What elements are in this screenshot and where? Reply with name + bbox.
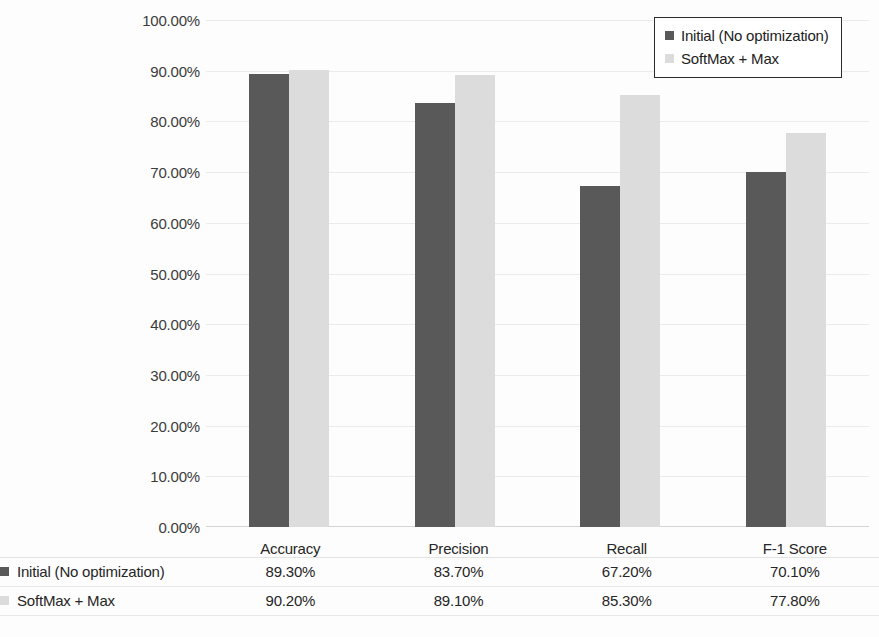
bar-group xyxy=(746,20,826,527)
legend-item-label: SoftMax + Max xyxy=(681,50,779,67)
table-column-header: Precision xyxy=(374,528,542,557)
plot-area xyxy=(206,20,869,527)
y-axis-tick-label: 80.00% xyxy=(108,113,200,130)
chart-data-table: Accuracy Precision Recall F-1 Score Init… xyxy=(0,528,879,616)
bar[interactable] xyxy=(249,74,289,527)
y-axis-tick-label: 30.00% xyxy=(108,366,200,383)
bar-group xyxy=(249,20,329,527)
table-series-label-cell: Initial (No optimization) xyxy=(0,557,206,586)
chart-legend: Initial (No optimization) SoftMax + Max xyxy=(654,17,842,78)
y-axis-tick-label: 50.00% xyxy=(108,265,200,282)
table-corner-cell xyxy=(0,528,206,557)
bar[interactable] xyxy=(289,70,329,527)
table-series-label: Initial (No optimization) xyxy=(17,563,165,580)
legend-swatch-icon xyxy=(665,31,674,40)
y-axis-tick-label: 40.00% xyxy=(108,316,200,333)
series-swatch-icon xyxy=(0,596,9,605)
table-cell: 90.20% xyxy=(206,586,374,615)
table-header-row: Accuracy Precision Recall F-1 Score xyxy=(0,528,879,557)
y-axis-tick-label: 60.00% xyxy=(108,214,200,231)
legend-item[interactable]: SoftMax + Max xyxy=(665,47,829,70)
table-row: Initial (No optimization) 89.30% 83.70% … xyxy=(0,557,879,586)
bar[interactable] xyxy=(746,172,786,527)
bar[interactable] xyxy=(620,95,660,527)
chart-figure: 0.00%10.00%20.00%30.00%40.00%50.00%60.00… xyxy=(0,0,879,637)
table-cell: 83.70% xyxy=(374,557,542,586)
table-cell: 67.20% xyxy=(543,557,711,586)
bar-group xyxy=(580,20,660,527)
bar[interactable] xyxy=(580,186,620,527)
table-cell: 89.10% xyxy=(374,586,542,615)
bar-group xyxy=(415,20,495,527)
table-row: SoftMax + Max 90.20% 89.10% 85.30% 77.80… xyxy=(0,586,879,615)
series-swatch-icon xyxy=(0,567,9,576)
y-axis-tick-label: 10.00% xyxy=(108,468,200,485)
legend-swatch-icon xyxy=(665,54,674,63)
table-series-label-cell: SoftMax + Max xyxy=(0,586,206,615)
y-axis-tick-label: 90.00% xyxy=(108,62,200,79)
table-cell: 85.30% xyxy=(543,586,711,615)
bar[interactable] xyxy=(455,75,495,527)
table-column-header: Recall xyxy=(543,528,711,557)
table-column-header: F-1 Score xyxy=(711,528,879,557)
bar[interactable] xyxy=(415,103,455,527)
bar[interactable] xyxy=(786,133,826,527)
table-column-header: Accuracy xyxy=(206,528,374,557)
legend-item-label: Initial (No optimization) xyxy=(681,27,829,44)
y-axis-tick-label: 70.00% xyxy=(108,164,200,181)
legend-item[interactable]: Initial (No optimization) xyxy=(665,24,829,47)
y-axis: 0.00%10.00%20.00%30.00%40.00%50.00%60.00… xyxy=(100,20,200,527)
table-cell: 70.10% xyxy=(711,557,879,586)
table-series-label: SoftMax + Max xyxy=(17,592,115,609)
table-cell: 89.30% xyxy=(206,557,374,586)
y-axis-tick-label: 20.00% xyxy=(108,417,200,434)
y-axis-tick-label: 100.00% xyxy=(108,12,200,29)
table-cell: 77.80% xyxy=(711,586,879,615)
